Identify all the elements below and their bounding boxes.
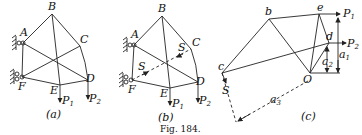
node-label-b: B	[157, 2, 166, 15]
point-label-o: O	[303, 73, 312, 86]
node-label-e: E	[159, 87, 168, 100]
node-label-f: F	[17, 80, 26, 93]
node-label-c: C	[80, 33, 89, 46]
node-label-c: C	[192, 36, 201, 49]
panel-label-c: (c)	[301, 110, 316, 123]
node-label-a: A	[19, 26, 28, 39]
point-label-c: c	[218, 60, 224, 73]
figure-184: B A C F E D P1 P2 (a)	[0, 0, 362, 135]
node-label-d: D	[85, 72, 95, 85]
force-label-s-lower: S	[138, 60, 146, 73]
load-label-p2: P2	[198, 94, 211, 108]
figure-caption: Fig. 184.	[160, 124, 201, 134]
panel-label-a: (a)	[46, 108, 61, 121]
load-label-p1: P1	[61, 94, 74, 108]
force-label-s-upper: S	[178, 41, 186, 54]
node-label-e: E	[49, 84, 58, 97]
arm-label-a2: a2	[322, 55, 334, 69]
node-label-b: B	[47, 0, 56, 13]
load-label-p1: P1	[171, 97, 184, 111]
point-label-e: e	[317, 1, 324, 14]
point-label-b: b	[265, 5, 272, 18]
force-label-p1: P1	[342, 7, 355, 21]
panel-b-truss: B A C F E D S S P1 P2 (b) Fig. 184.	[119, 2, 211, 134]
point-label-d: d	[326, 30, 333, 43]
force-label-s: S	[222, 84, 230, 97]
panel-label-b: (b)	[158, 111, 174, 124]
arm-label-a3: a3	[270, 93, 282, 107]
node-label-a: A	[130, 28, 139, 41]
load-label-p2: P2	[88, 92, 101, 106]
node-label-f: F	[127, 83, 136, 96]
arm-label-a1: a1	[339, 48, 350, 62]
force-label-p2: P2	[346, 37, 359, 51]
panel-c-moment-diagram: b e d c O S P1 P2 a1 a2 a3 (c)	[218, 1, 359, 123]
panel-a-truss: B A C F E D P1 P2 (a)	[10, 0, 101, 121]
node-label-d: D	[195, 75, 205, 88]
